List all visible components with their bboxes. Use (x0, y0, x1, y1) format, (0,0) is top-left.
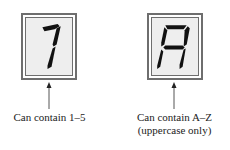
letter-display-face (151, 17, 199, 76)
digit-display-box (21, 13, 77, 80)
caption-line: Can contain 1–5 (0, 111, 107, 124)
seven-segment-digit-1-icon (26, 18, 72, 75)
caption-letter-display: Can contain A–Z (uppercase only) (117, 111, 230, 137)
arrow-up-icon (44, 82, 54, 110)
caption-line: (uppercase only) (117, 124, 230, 137)
arrow-up-icon (169, 82, 179, 110)
caption-line: Can contain A–Z (117, 111, 230, 124)
digit-display-face (25, 17, 73, 76)
seven-segment-letter-A-icon (152, 18, 198, 75)
caption-digit-display: Can contain 1–5 (0, 111, 107, 124)
letter-display-box (147, 13, 203, 80)
